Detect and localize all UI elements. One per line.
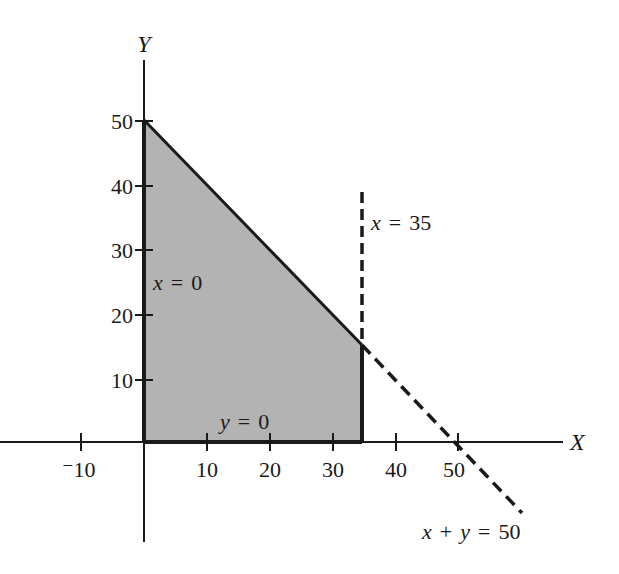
y-axis-label: Y [137, 31, 153, 57]
x-axis-label: X [569, 429, 586, 455]
constraint-label-x-35: x=35 [370, 210, 431, 235]
y-tick-label: 10 [111, 368, 133, 393]
constraint-label-x-0: x=0 [152, 270, 202, 295]
constraint-label-x-plus-y-50: x+y=50 [421, 519, 520, 544]
y-tick-label: 40 [111, 174, 133, 199]
x-tick-label: ⁻10 [62, 457, 96, 482]
constraint-label-y-0: y=0 [218, 409, 269, 434]
x-tick-label: 30 [322, 457, 344, 482]
x-tick-label: 20 [259, 457, 281, 482]
y-tick-label: 50 [111, 109, 133, 134]
y-tick-label: 30 [111, 238, 133, 263]
constraint-x-plus-y-50-dashed-line [362, 345, 522, 513]
y-tick-label: 20 [111, 303, 133, 328]
x-tick-label: 10 [196, 457, 218, 482]
feasible-region-diagram: ⁻10 10 20 30 40 50 50 40 30 20 10 X Y x=… [0, 0, 619, 574]
x-tick-label: 40 [385, 457, 407, 482]
x-tick-label: 50 [443, 457, 465, 482]
